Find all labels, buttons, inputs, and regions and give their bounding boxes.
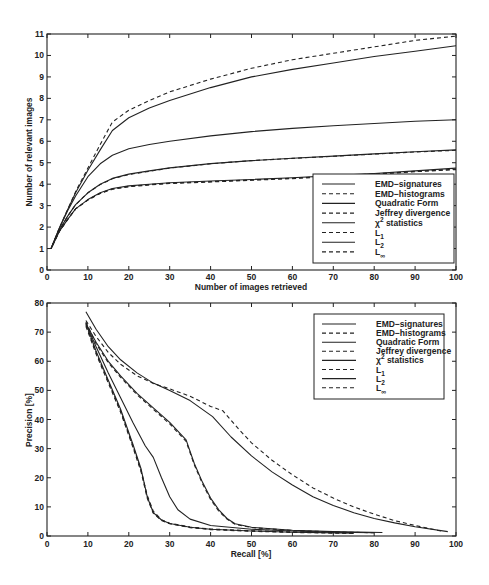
y-tick-label: 4	[39, 179, 44, 189]
background	[0, 0, 489, 585]
y-tick-label: 60	[35, 356, 45, 366]
x-tick-label: 10	[83, 539, 93, 549]
y-tick-label: 70	[35, 327, 45, 337]
x-tick-label: 100	[449, 539, 463, 549]
legend-label: Jeffrey divergence	[375, 208, 450, 218]
x-tick-label: 70	[329, 539, 339, 549]
y-tick-label: 10	[35, 50, 45, 60]
x-tick-label: 90	[410, 272, 420, 282]
y-tick-label: 6	[39, 136, 44, 146]
y-tick-label: 30	[35, 444, 45, 454]
subscript: 1	[381, 370, 385, 377]
y-tick-label: 20	[35, 473, 45, 483]
y-tick-label: 11	[35, 29, 44, 39]
subscript: 1	[380, 233, 384, 240]
legend-label: EMD−histograms	[375, 189, 445, 199]
legend-label: Quadratic Form	[375, 198, 439, 208]
x-tick-label: 50	[247, 272, 257, 282]
y-tick-label: 7	[39, 115, 44, 125]
y-tick-label: 2	[39, 222, 44, 232]
subscript: 2	[381, 379, 385, 386]
y-tick-label: 0	[39, 265, 44, 275]
x-tick-label: 10	[83, 272, 93, 282]
label-suffix: statistics	[385, 355, 424, 365]
x-tick-label: 30	[165, 272, 175, 282]
x-tick-label: 50	[247, 539, 257, 549]
x-tick-label: 40	[206, 272, 216, 282]
x-tick-label: 30	[165, 539, 175, 549]
subscript: 2	[380, 242, 384, 249]
x-tick-label: 100	[449, 272, 463, 282]
y-tick-label: 8	[39, 93, 44, 103]
y-tick-label: 0	[39, 531, 44, 541]
y-tick-label: 1	[39, 244, 44, 254]
y-tick-label: 80	[35, 298, 45, 308]
y-tick-label: 10	[35, 502, 45, 512]
x-tick-label: 0	[45, 272, 50, 282]
x-tick-label: 80	[369, 272, 379, 282]
y-axis-label: Number of relevant images	[24, 97, 34, 206]
x-tick-label: 60	[288, 272, 298, 282]
x-axis-label: Recall [%]	[231, 549, 272, 559]
x-tick-label: 0	[45, 539, 50, 549]
y-tick-label: 3	[39, 201, 44, 211]
x-tick-label: 20	[124, 272, 134, 282]
legend-label: EMD−signatures	[375, 179, 442, 189]
subscript: ∞	[380, 252, 385, 259]
legend: EMD−signaturesEMD−histogramsQuadratic Fo…	[313, 174, 454, 263]
y-axis-label: Precision [%]	[24, 393, 34, 447]
legend: EMD−signaturesEMD−histogramsQuadratic Fo…	[314, 314, 451, 399]
x-tick-label: 60	[288, 539, 298, 549]
y-tick-label: 5	[39, 158, 44, 168]
x-tick-label: 80	[369, 539, 379, 549]
y-tick-label: 50	[35, 385, 45, 395]
y-tick-label: 9	[39, 72, 44, 82]
figure: 010203040506070809010001234567891011EMD−…	[0, 0, 489, 585]
label-suffix: statistics	[384, 218, 423, 228]
x-axis-label: Number of images retrieved	[195, 282, 307, 292]
x-tick-label: 90	[410, 539, 420, 549]
subscript: ∞	[381, 388, 386, 395]
x-tick-label: 70	[329, 272, 339, 282]
x-tick-label: 20	[124, 539, 134, 549]
x-tick-label: 40	[206, 539, 216, 549]
y-tick-label: 40	[35, 415, 45, 425]
